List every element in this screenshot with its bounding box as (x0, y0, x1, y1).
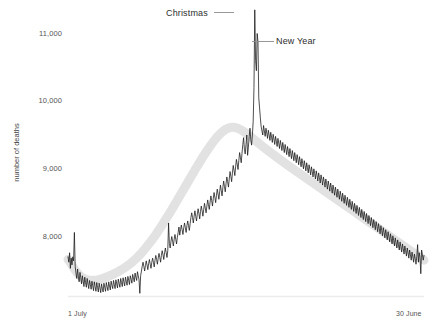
trend-band-series (68, 127, 424, 280)
daily-deaths-series (68, 10, 424, 294)
chart-container: number of deaths 11,000 10,000 9,000 8,0… (0, 0, 433, 333)
plot-area (0, 0, 433, 333)
